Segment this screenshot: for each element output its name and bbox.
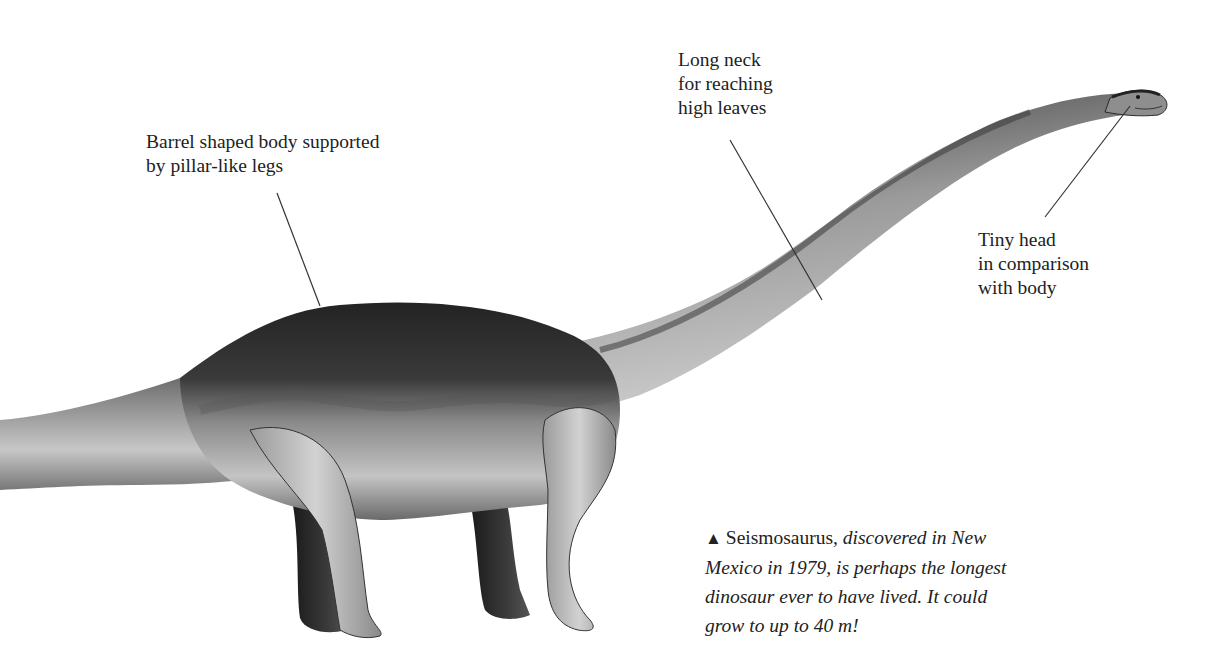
caption-line-4: grow to up to 40 m! (705, 611, 1125, 640)
label-head-line: with body (978, 276, 1089, 300)
caption-text: discovered in New (838, 527, 986, 548)
caption-line-2: Mexico in 1979, is perhaps the longest (705, 553, 1125, 582)
label-neck-line: high leaves (678, 96, 773, 120)
label-head-line: Tiny head (978, 228, 1089, 252)
caption: ▲Seismosaurus, discovered in New Mexico … (705, 523, 1125, 640)
label-head: Tiny head in comparison with body (978, 228, 1089, 300)
far-front-leg (470, 495, 530, 619)
label-neck-line: for reaching (678, 72, 773, 96)
caption-line-1: ▲Seismosaurus, discovered in New (705, 523, 1125, 553)
leader-line-body (277, 193, 320, 306)
label-head-line: in comparison (978, 252, 1089, 276)
caption-line-3: dinosaur ever to have lived. It could (705, 582, 1125, 611)
label-neck: Long neck for reaching high leaves (678, 48, 773, 120)
caption-species-name: Seismosaurus, (726, 527, 838, 548)
label-body-line: Barrel shaped body supported (146, 130, 379, 154)
triangle-marker-icon: ▲ (705, 529, 722, 548)
label-neck-line: Long neck (678, 48, 773, 72)
label-body-line: by pillar-like legs (146, 154, 379, 178)
label-body: Barrel shaped body supported by pillar-l… (146, 130, 379, 178)
near-front-leg (543, 408, 616, 631)
